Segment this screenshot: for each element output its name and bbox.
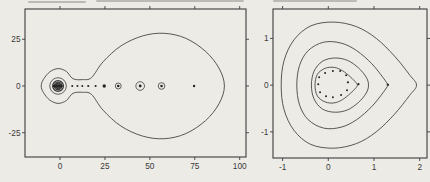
y-tick-label: -25 xyxy=(9,128,21,138)
x-tick-label: 0 xyxy=(326,162,331,172)
contour-curve xyxy=(311,58,368,112)
eigenvalue-dot xyxy=(357,83,359,85)
figure: 0255075100-25025 -1012-101 xyxy=(0,0,430,182)
contour-curve xyxy=(41,33,224,139)
eigenvalue-dot xyxy=(76,85,78,87)
eigenvalue-dot xyxy=(347,81,349,83)
eigenvalue-dot xyxy=(160,85,163,88)
eigenvalue-dot xyxy=(117,85,120,88)
eigenvalue-dot xyxy=(318,76,320,78)
eigenvalue-dot xyxy=(339,70,341,72)
eigenvalue-dot xyxy=(345,74,347,76)
contour-curve xyxy=(281,22,416,148)
contour-curve xyxy=(315,67,358,103)
y-tick-label: 25 xyxy=(11,34,21,44)
x-tick-label: 1 xyxy=(372,162,377,172)
x-tick-label: 50 xyxy=(145,161,155,171)
contour-curve xyxy=(297,42,389,129)
eigenvalue-dot xyxy=(193,85,195,87)
y-tick-label: 0 xyxy=(264,80,269,90)
eigenvalue-dot xyxy=(325,95,327,97)
eigenvalue-dot xyxy=(95,85,97,87)
eigenvalue-dot xyxy=(387,84,389,86)
eigenvalue-dot xyxy=(87,85,89,87)
plot-box xyxy=(273,9,427,158)
eigenvalue-dot xyxy=(139,85,142,88)
eigenvalue-dot xyxy=(103,84,106,87)
x-tick-label: 75 xyxy=(190,161,200,171)
eigenvalue-dot xyxy=(332,70,334,72)
eigenvalue-dot xyxy=(332,96,334,98)
x-tick-label: 25 xyxy=(100,161,110,171)
eigenvalue-dot xyxy=(324,72,326,74)
x-tick-label: 100 xyxy=(233,161,247,171)
eigenvalue-dot xyxy=(71,85,73,87)
x-tick-label: 0 xyxy=(58,161,63,171)
right-plot: -1012-101 xyxy=(261,6,430,172)
y-tick-label: -1 xyxy=(261,127,269,137)
eigenvalue-dot xyxy=(319,91,321,93)
eigenvalue-dot xyxy=(340,94,342,96)
x-tick-label: 2 xyxy=(417,162,422,172)
x-tick-label: -1 xyxy=(279,162,287,172)
left-plot: 0255075100-25025 xyxy=(9,6,250,171)
eigenvalue-dot xyxy=(81,85,83,87)
eigenvalue-cluster xyxy=(52,84,62,87)
y-tick-label: 0 xyxy=(16,81,21,91)
y-tick-label: 1 xyxy=(264,33,269,43)
figure-canvas: 0255075100-25025 -1012-101 xyxy=(0,0,430,182)
eigenvalue-dot xyxy=(317,83,319,85)
eigenvalue-dot xyxy=(346,89,348,91)
